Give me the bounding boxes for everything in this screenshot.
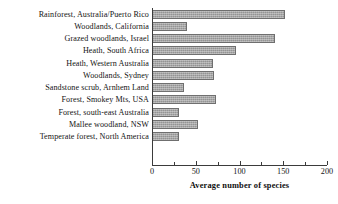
bar — [152, 71, 214, 80]
bar-track — [152, 120, 198, 129]
category-label: Woodlands, California — [0, 22, 149, 31]
bar-track — [152, 46, 236, 55]
bar — [152, 108, 179, 117]
bar-track — [152, 83, 184, 92]
bar-rows: Rainforest, Australia/Puerto RicoWoodlan… — [0, 8, 329, 143]
bar — [152, 22, 187, 31]
x-tick-minor — [261, 162, 262, 165]
category-label: Rainforest, Australia/Puerto Rico — [0, 10, 149, 19]
x-tick-label: 50 — [181, 167, 211, 177]
x-tick-label: 200 — [312, 167, 338, 177]
category-label: Heath, South Africa — [0, 46, 149, 55]
x-tick-minor — [218, 162, 219, 165]
bar — [152, 95, 216, 104]
x-tick-minor — [305, 162, 306, 165]
bar-track — [152, 95, 216, 104]
bar-track — [152, 59, 213, 68]
bar-row: Heath, South Africa — [0, 45, 329, 57]
x-axis-title: Average number of species — [152, 181, 327, 190]
bar-row: Grazed woodlands, Israel — [0, 33, 329, 45]
category-label: Grazed woodlands, Israel — [0, 34, 149, 43]
bar-row: Woodlands, Sydney — [0, 69, 329, 81]
x-tick-label: 150 — [268, 167, 298, 177]
category-label: Woodlands, Sydney — [0, 71, 149, 80]
category-label: Forest, Smokey Mts, USA — [0, 95, 149, 104]
bar — [152, 34, 275, 43]
bar-row: Temperate forest, North America — [0, 131, 329, 143]
bar-row: Heath, Western Australia — [0, 57, 329, 69]
bar-row: Mallee woodland, NSW — [0, 118, 329, 130]
bar-track — [152, 71, 214, 80]
x-tick — [327, 161, 328, 166]
x-tick — [152, 161, 153, 166]
bar-row: Forest, south-east Australia — [0, 106, 329, 118]
bar — [152, 10, 285, 19]
bar — [152, 132, 179, 141]
bar — [152, 59, 213, 68]
bar-row: Forest, Smokey Mts, USA — [0, 94, 329, 106]
category-label: Sandstone scrub, Arnhem Land — [0, 83, 149, 92]
bar-row: Rainforest, Australia/Puerto Rico — [0, 8, 329, 20]
category-label: Heath, Western Australia — [0, 59, 149, 68]
bar — [152, 46, 236, 55]
bar — [152, 120, 198, 129]
category-label: Temperate forest, North America — [0, 132, 149, 141]
bar — [152, 83, 184, 92]
x-tick-label: 100 — [225, 167, 255, 177]
bar-track — [152, 108, 179, 117]
x-tick — [283, 161, 284, 166]
bar-track — [152, 22, 187, 31]
bar-track — [152, 132, 179, 141]
x-tick-minor — [174, 162, 175, 165]
x-tick — [196, 161, 197, 166]
bar-row: Woodlands, California — [0, 20, 329, 32]
category-label: Mallee woodland, NSW — [0, 120, 149, 129]
bar-row: Sandstone scrub, Arnhem Land — [0, 82, 329, 94]
x-tick-label: 0 — [137, 167, 167, 177]
category-label: Forest, south-east Australia — [0, 108, 149, 117]
bar-track — [152, 34, 275, 43]
x-tick — [240, 161, 241, 166]
y-axis-line — [152, 8, 153, 165]
bar-track — [152, 10, 285, 19]
